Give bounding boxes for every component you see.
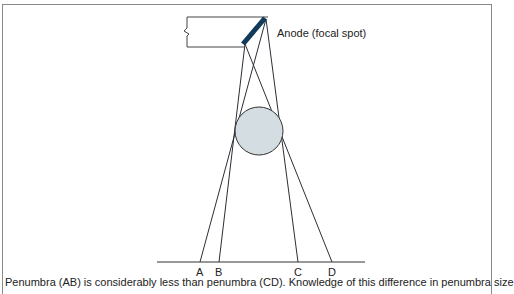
anode-label: Anode (focal spot) [277,27,366,39]
object-circle [235,107,283,155]
anode-focal-spot [243,18,265,44]
figure-caption: Penumbra (AB) is considerably less than … [5,276,514,288]
